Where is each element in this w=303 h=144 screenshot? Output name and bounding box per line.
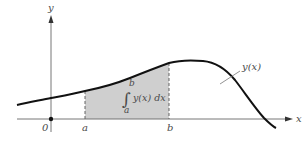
integral-upper-limit: b (129, 78, 135, 88)
integral-lower-limit: a (124, 105, 129, 115)
integral-integrand: y(x) dx (132, 92, 166, 103)
origin-label: 0 (42, 122, 49, 133)
x-axis-arrow-icon (285, 117, 293, 122)
y-axis-label: y (47, 2, 54, 13)
y-axis-arrow-icon (49, 15, 54, 23)
integral-diagram: y x 0 a b y(x) ∫ b a y(x) dx (0, 0, 303, 144)
x-axis-label: x (296, 113, 302, 124)
bound-label-b: b (167, 122, 173, 133)
bound-label-a: a (82, 122, 88, 133)
origin-dot (49, 117, 53, 121)
curve-label: y(x) (241, 61, 261, 72)
